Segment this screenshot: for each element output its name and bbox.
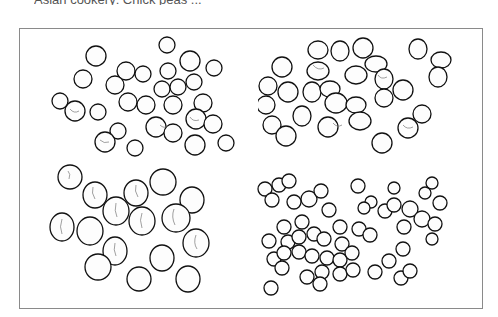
legume-group-top-right	[258, 35, 470, 160]
round-legumes-drawing	[40, 35, 250, 160]
page-caption: Asian cookery: Chick peas ...	[34, 0, 202, 5]
oval-legumes-drawing	[258, 35, 470, 160]
small-round-legumes-drawing	[252, 167, 474, 307]
legume-group-top-left	[40, 35, 250, 160]
legume-group-bottom-right	[252, 167, 474, 307]
illustration-frame	[19, 28, 483, 309]
wrinkled-legumes-drawing	[40, 163, 250, 305]
legume-group-bottom-left	[40, 163, 250, 305]
